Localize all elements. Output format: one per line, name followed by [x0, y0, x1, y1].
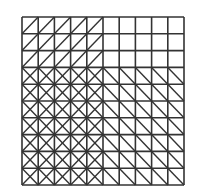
- diagonal-backslash: [168, 84, 184, 101]
- diagonal-backslash: [152, 135, 168, 152]
- diagonal-backslash: [135, 168, 151, 185]
- diagonal-backslash: [119, 151, 135, 168]
- diagonal-backslash: [103, 84, 119, 101]
- diagonal-backslash: [168, 151, 184, 168]
- diagonal-slash: [54, 34, 70, 51]
- diagonal-slash: [22, 17, 38, 34]
- diagonal-slash: [71, 51, 87, 68]
- diagonal-backslash: [135, 101, 151, 118]
- diagonal-backslash: [135, 67, 151, 84]
- diagonal-backslash: [152, 101, 168, 118]
- diagonal-slash: [22, 34, 38, 51]
- diagonal-backslash: [103, 118, 119, 135]
- diagonal-backslash: [103, 101, 119, 118]
- diagonal-backslash: [135, 118, 151, 135]
- diagonal-backslash: [119, 168, 135, 185]
- diagonal-slash: [87, 17, 103, 34]
- diagonal-backslash: [119, 84, 135, 101]
- diagonal-slash: [54, 51, 70, 68]
- triangulated-grid-diagram: [0, 0, 201, 192]
- diagonal-backslash: [168, 168, 184, 185]
- diagonal-backslash: [152, 67, 168, 84]
- diagonal-backslash: [152, 168, 168, 185]
- diagonal-backslash: [135, 151, 151, 168]
- diagonal-backslash: [135, 84, 151, 101]
- diagonal-slash: [54, 17, 70, 34]
- diagonal-backslash: [152, 84, 168, 101]
- diagonal-backslash: [152, 118, 168, 135]
- diagonal-backslash: [168, 135, 184, 152]
- diagonal-slash: [38, 17, 54, 34]
- diagonal-slash: [71, 17, 87, 34]
- diagonal-slash: [87, 34, 103, 51]
- diagonal-backslash: [103, 67, 119, 84]
- diagonal-backslash: [119, 101, 135, 118]
- diagonal-backslash: [119, 135, 135, 152]
- diagonal-slash: [38, 51, 54, 68]
- diagonal-backslash: [103, 135, 119, 152]
- diagonal-backslash: [168, 67, 184, 84]
- diagonal-backslash: [103, 168, 119, 185]
- diagonal-slash: [87, 51, 103, 68]
- diagonal-slash: [38, 34, 54, 51]
- diagonal-backslash: [119, 118, 135, 135]
- diagonal-backslash: [168, 118, 184, 135]
- diagonal-backslash: [119, 67, 135, 84]
- diagonal-slash: [22, 51, 38, 68]
- diagonal-backslash: [103, 151, 119, 168]
- diagonal-backslash: [168, 101, 184, 118]
- diagonal-slash: [71, 34, 87, 51]
- diagonal-backslash: [135, 135, 151, 152]
- diagonal-backslash: [152, 151, 168, 168]
